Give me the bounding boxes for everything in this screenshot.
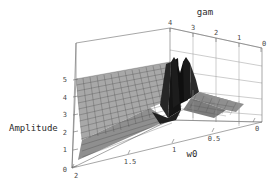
gam-tick-2: 2	[214, 29, 218, 37]
gam-tick-4: 4	[168, 19, 172, 27]
surface-plot-figure: 5 4 3 2 1 0 4 3 2 1 0 2 1.5 1 0.5 0 Ampl…	[0, 0, 274, 188]
plot-canvas: 5 4 3 2 1 0 4 3 2 1 0 2 1.5 1 0.5 0 Ampl…	[0, 0, 274, 188]
amplitude-axis-label: Amplitude	[9, 123, 58, 133]
w0-tick-1p5: 1.5	[124, 158, 137, 166]
gam-lower-tick-0p5: 0.5	[208, 135, 221, 143]
w0-tick-1: 1	[172, 146, 176, 154]
w0-tick-2: 2	[74, 172, 78, 180]
gam-tick-1: 1	[237, 34, 241, 42]
amplitude-tick-2: 2	[63, 129, 67, 137]
w0-axis-label: w0	[187, 149, 198, 159]
gam-tick-3: 3	[191, 24, 195, 32]
gam-tick-0: 0	[262, 40, 266, 48]
gam-lower-tick-0: 0	[255, 125, 259, 133]
amplitude-tick-1: 1	[63, 146, 67, 154]
amplitude-tick-5: 5	[63, 76, 67, 84]
amplitude-tick-3: 3	[63, 111, 67, 119]
gam-axis-label: gam	[197, 7, 213, 17]
amplitude-tick-0: 0	[63, 166, 67, 174]
amplitude-tick-4: 4	[63, 94, 67, 102]
